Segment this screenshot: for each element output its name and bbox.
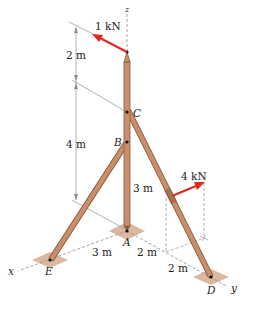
point-d [209, 275, 212, 278]
point-label-a: A [123, 237, 131, 248]
axis-label-z: z [125, 6, 129, 14]
dim-label-ab: 3 m [133, 183, 153, 194]
dim-label-mid: 4 m [66, 139, 86, 150]
force-arrow-1kn [92, 34, 127, 52]
dim-label-ae: 3 m [92, 247, 112, 258]
dim-label-a-foot: 2 m [137, 247, 157, 258]
strut-be [52, 142, 127, 258]
force-arrow-4kn [172, 182, 205, 196]
point-label-b: B [114, 137, 122, 148]
extension-line [72, 80, 125, 111]
force-label-4kn: 4 kN [181, 171, 207, 182]
arrowhead [74, 194, 78, 200]
point-label-d: D [207, 285, 215, 296]
arrowhead [74, 75, 78, 81]
dim-label-foot-d: 2 m [168, 263, 188, 274]
point-c [125, 110, 128, 113]
axis-label-x: x [8, 266, 14, 277]
point-label-e: E [45, 266, 53, 277]
arrowhead [74, 83, 78, 89]
extension-line [69, 22, 93, 34]
mast-diagram [0, 0, 258, 310]
point-label-c: C [133, 108, 141, 119]
point-e [48, 258, 51, 261]
dim-label-top: 2 m [66, 50, 86, 61]
axis-label-y: y [231, 283, 237, 294]
arrowhead [74, 27, 78, 33]
point-b [125, 140, 128, 143]
y-axis-line [127, 231, 228, 287]
force-label-1kn: 1 kN [95, 21, 121, 32]
point-a [125, 229, 128, 232]
